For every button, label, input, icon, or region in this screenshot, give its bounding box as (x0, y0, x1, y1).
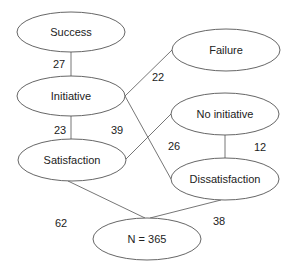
node-label: Dissatisfaction (190, 173, 261, 185)
edge-value-label: 12 (254, 141, 266, 153)
flow-diagram: SuccessInitiativeFailureNo initiativeSat… (0, 0, 292, 271)
edge-dissatisfaction-to-n-total (150, 200, 221, 218)
edge-value-label: 27 (53, 58, 65, 70)
node-success: Success (17, 12, 125, 52)
node-label: Initiative (51, 90, 91, 102)
edge-satisfaction-to-no-initiative (126, 114, 171, 159)
edge-value-label: 22 (152, 71, 164, 83)
node-label: N = 365 (128, 233, 167, 245)
node-n-total: N = 365 (93, 218, 201, 260)
node-no-initiative: No initiative (171, 93, 279, 135)
edge-value-label: 38 (213, 215, 225, 227)
edge-value-label: 23 (54, 124, 66, 136)
edge-value-label: 39 (111, 124, 123, 136)
edge-satisfaction-to-n-total (68, 181, 145, 218)
node-label: Success (50, 26, 92, 38)
node-failure: Failure (172, 29, 280, 71)
edge-value-label: 26 (168, 140, 180, 152)
node-label: Failure (209, 44, 243, 56)
node-initiative: Initiative (17, 76, 125, 116)
node-satisfaction: Satisfaction (18, 139, 126, 181)
node-dissatisfaction: Dissatisfaction (171, 158, 279, 200)
edge-initiative-to-failure (125, 50, 172, 96)
node-label: No initiative (197, 108, 254, 120)
edge-value-label: 62 (55, 217, 67, 229)
node-label: Satisfaction (44, 154, 101, 166)
